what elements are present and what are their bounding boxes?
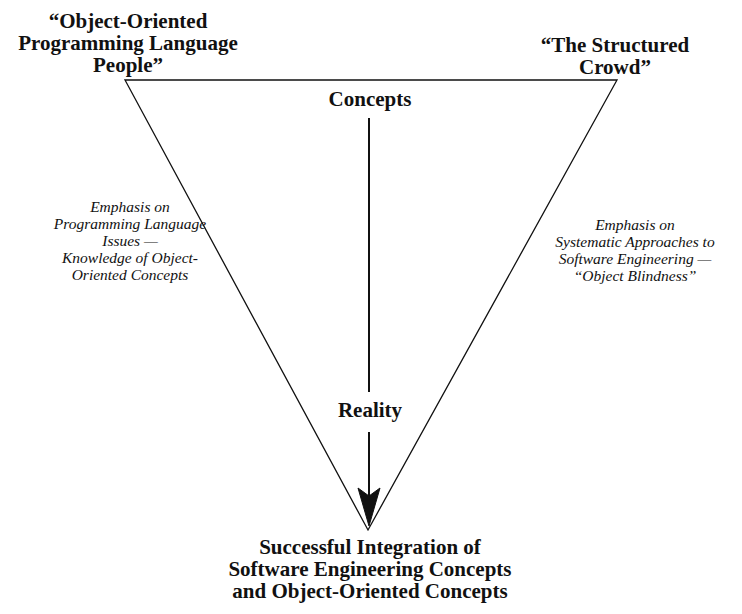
axis-label-concepts: Concepts (300, 87, 440, 111)
axis-label-reality: Reality (300, 398, 440, 422)
corner-label-oop-people: “Object-Oriented Programming Language Pe… (0, 10, 256, 76)
side-label-systematic-approaches-emphasis: Emphasis on Systematic Approaches to Sof… (535, 216, 735, 284)
side-label-programming-language-emphasis: Emphasis on Programming Language Issues … (20, 198, 240, 283)
corner-label-successful-integration: Successful Integration of Software Engin… (170, 536, 570, 602)
inverted-triangle-shape (125, 80, 617, 530)
corner-label-structured-crowd: “The Structured Crowd” (520, 34, 710, 78)
